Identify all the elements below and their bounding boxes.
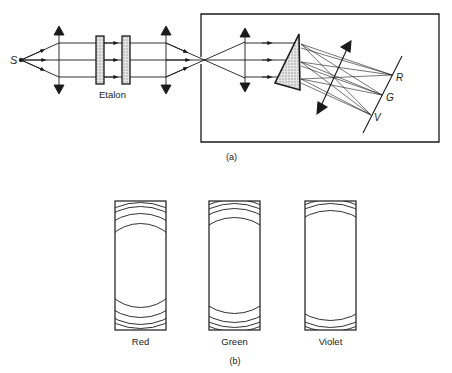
panel-label-red: Red	[132, 336, 149, 347]
detector-label-r: R	[396, 72, 403, 83]
optical-diagram: S Etalon R G V (a)	[0, 0, 452, 373]
etalon-plate-1	[96, 36, 104, 84]
caption-a: (a)	[226, 152, 237, 162]
etalon-plate-2	[122, 36, 130, 84]
fringe-panel-red	[78, 201, 204, 330]
fringe-rings-red	[78, 203, 204, 329]
panel-label-green: Green	[221, 336, 247, 347]
fringe-rings-violet	[265, 200, 397, 332]
converging-rays	[166, 42, 245, 78]
diverging-rays	[21, 43, 59, 77]
detector-label-v: V	[374, 112, 382, 123]
camera-lens-icon	[317, 41, 351, 114]
caption-b: (b)	[230, 356, 241, 366]
etalon-label: Etalon	[99, 89, 126, 100]
fringe-rings-green	[169, 200, 301, 332]
collimated-rays	[59, 43, 166, 77]
panel-label-violet: Violet	[319, 336, 343, 347]
fringe-panel-violet	[265, 200, 397, 332]
dispersing-prism	[275, 34, 300, 90]
detector-label-g: G	[386, 92, 394, 103]
source-label: S	[10, 54, 18, 66]
fringe-panel-green	[169, 200, 301, 332]
dispersed-rays	[301, 44, 392, 115]
detector-plane	[363, 56, 402, 133]
